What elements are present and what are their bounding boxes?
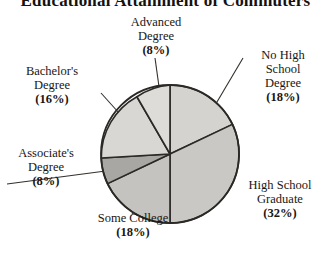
pie-label-no-high-school-degree: No High School Degree (18%) [243, 48, 323, 104]
pie-label-advanced-degree-line2: Degree [103, 29, 209, 43]
pie-chart-figure: Educational Attainment of Commuters Adva… [0, 0, 331, 258]
pie-label-high-school-graduate-percent: (32%) [232, 206, 328, 220]
pie-label-associates-degree-line2: Degree [2, 160, 90, 174]
pie-label-bachelors-degree-percent: (16%) [4, 92, 100, 106]
pie-label-no-high-school-degree-line1: No High [243, 48, 323, 62]
pie-label-high-school-graduate-line2: Graduate [232, 192, 328, 206]
pie-label-associates-degree-line1: Associate's [2, 146, 90, 160]
pie-label-no-high-school-degree-line2: School [243, 62, 323, 76]
pie-label-some-college-line1: Some College [76, 211, 190, 225]
pie-label-some-college: Some College (18%) [76, 211, 190, 239]
pie-label-advanced-degree: Advanced Degree (8%) [103, 15, 209, 57]
pie-label-some-college-percent: (18%) [76, 225, 190, 239]
pie-label-high-school-graduate-line1: High School [232, 178, 328, 192]
pie-label-advanced-degree-line1: Advanced [103, 15, 209, 29]
pie-label-bachelors-degree-line2: Degree [4, 78, 100, 92]
pie-label-associates-degree-percent: (8%) [2, 174, 90, 188]
leader-line-nohighschool [214, 58, 243, 107]
pie-label-bachelors-degree-line1: Bachelor's [4, 64, 100, 78]
pie-label-no-high-school-degree-percent: (18%) [243, 90, 323, 104]
pie-label-high-school-graduate: High School Graduate (32%) [232, 178, 328, 220]
pie-label-advanced-degree-percent: (8%) [103, 43, 209, 57]
pie-label-associates-degree: Associate's Degree (8%) [2, 146, 90, 188]
pie-label-no-high-school-degree-line3: Degree [243, 76, 323, 90]
pie-label-bachelors-degree: Bachelor's Degree (16%) [4, 64, 100, 106]
